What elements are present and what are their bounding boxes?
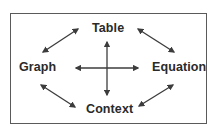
arrow-graph-context (41, 85, 75, 107)
node-context-label: Context (86, 103, 133, 116)
node-equation-label: Equation (152, 61, 206, 74)
arrow-context-equation (139, 85, 173, 106)
node-table-label: Table (92, 22, 124, 35)
arrow-table-equation (138, 29, 174, 52)
arrow-graph-table (43, 29, 78, 52)
node-graph-label: Graph (19, 61, 56, 74)
